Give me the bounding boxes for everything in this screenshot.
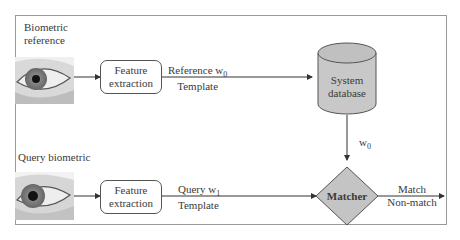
feature-extraction-box-query: Feature extraction [100, 180, 162, 214]
matcher-label: Matcher [318, 190, 376, 203]
system-database-label: System database [322, 74, 372, 100]
eye-icon [15, 57, 74, 104]
eye-icon [15, 172, 74, 220]
biometric-reference-title: Biometric reference [24, 21, 68, 47]
match-result-label: Match Non-match [383, 183, 441, 209]
query-biometric-title: Query biometric [18, 151, 90, 164]
reference-template-label: Reference w0 Template [168, 64, 227, 93]
database-output-label: w0 [359, 136, 371, 153]
query-template-label: Query w1 Template [178, 183, 220, 212]
feature-extraction-box-reference: Feature extraction [100, 60, 162, 94]
